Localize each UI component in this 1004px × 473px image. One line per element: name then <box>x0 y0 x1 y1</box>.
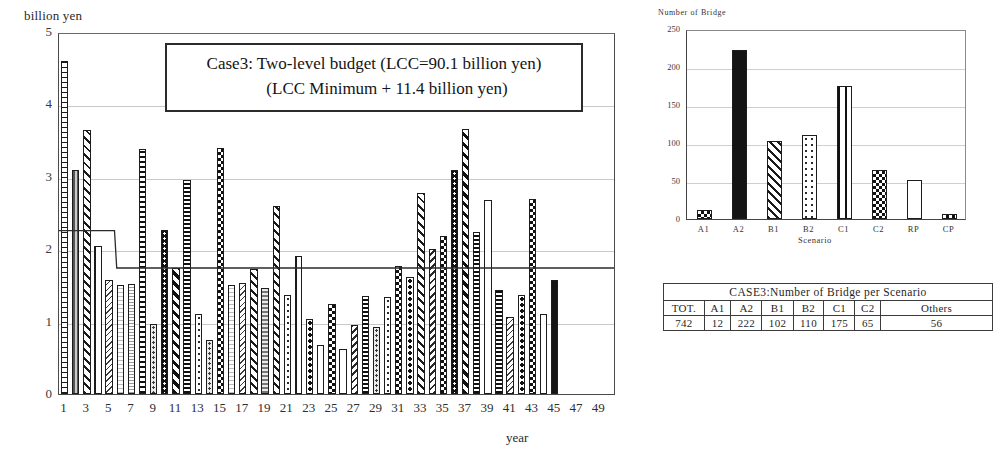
main-x-tick-27: 27 <box>341 400 365 416</box>
scenario-gridline-50 <box>687 183 965 184</box>
bar-year-45 <box>551 280 558 394</box>
main-x-tick-29: 29 <box>363 400 387 416</box>
bar-year-3 <box>83 130 90 394</box>
bar-year-33 <box>417 193 424 394</box>
table-header-a1: A1 <box>704 301 731 316</box>
bar-year-8 <box>139 149 146 394</box>
bar-year-37 <box>462 129 469 394</box>
main-x-tick-47: 47 <box>564 400 588 416</box>
bar-year-19 <box>261 288 268 394</box>
bar-year-42 <box>518 295 525 394</box>
bar-year-16 <box>228 285 235 394</box>
chart-title-line-1: Case3: Two-level budget (LCC=90.1 billio… <box>171 52 577 77</box>
table-header-c1: C1 <box>824 301 855 316</box>
scenario-x-tick-RP: RP <box>899 224 929 234</box>
scenario-bar-RP <box>907 180 922 219</box>
bar-year-20 <box>273 206 280 394</box>
scenario-x-tick-B1: B1 <box>759 224 789 234</box>
chart-title-line-2: (LCC Minimum + 11.4 billion yen) <box>171 77 577 102</box>
scenario-y-axis-label: Number of Bridge <box>658 8 726 17</box>
table-header-others: Others <box>881 301 993 316</box>
main-y-tick-1: 1 <box>26 314 52 330</box>
bar-year-13 <box>195 314 202 394</box>
table-cell-tot: 742 <box>664 316 705 331</box>
bar-year-9 <box>150 324 157 394</box>
main-x-tick-33: 33 <box>408 400 432 416</box>
main-y-tick-2: 2 <box>26 241 52 257</box>
scenario-gridline-150 <box>687 107 965 108</box>
main-x-tick-5: 5 <box>96 400 120 416</box>
scenario-x-tick-A2: A2 <box>724 224 754 234</box>
main-x-tick-7: 7 <box>118 400 142 416</box>
scenario-x-axis-label: Scenario <box>798 235 832 245</box>
bar-year-21 <box>284 295 291 394</box>
scenario-bar-B2 <box>802 135 817 219</box>
bar-year-28 <box>362 296 369 394</box>
bar-year-6 <box>117 285 124 394</box>
main-x-tick-13: 13 <box>185 400 209 416</box>
scenario-x-tick-B2: B2 <box>794 224 824 234</box>
scenario-x-tick-A1: A1 <box>689 224 719 234</box>
bar-year-5 <box>105 280 112 394</box>
bar-year-35 <box>440 236 447 394</box>
bar-year-41 <box>506 317 513 394</box>
table-caption-row: CASE3:Number of Bridge per Scenario <box>664 284 993 301</box>
bar-year-23 <box>306 319 313 394</box>
scenario-bar-CP <box>942 214 957 219</box>
main-x-axis-label: year <box>506 430 528 446</box>
main-x-tick-19: 19 <box>252 400 276 416</box>
bar-year-29 <box>373 327 380 394</box>
scenario-y-tick-100: 100 <box>656 138 680 148</box>
table-header-b2: B2 <box>793 301 824 316</box>
bar-year-40 <box>495 290 502 394</box>
main-x-tick-23: 23 <box>297 400 321 416</box>
table-cell-a2: 222 <box>731 316 762 331</box>
main-x-tick-37: 37 <box>453 400 477 416</box>
main-x-tick-17: 17 <box>230 400 254 416</box>
bar-year-2 <box>72 170 79 394</box>
main-x-ticks: 1357911131517192123252729313335373941434… <box>58 400 615 420</box>
bar-year-36 <box>451 170 458 394</box>
bar-year-26 <box>339 349 346 394</box>
bar-year-34 <box>429 249 436 394</box>
scenario-bar-C1 <box>837 86 852 219</box>
bar-year-25 <box>328 304 335 394</box>
table-header-b1: B1 <box>762 301 793 316</box>
scenario-y-tick-250: 250 <box>656 24 680 34</box>
bar-year-1 <box>61 61 68 394</box>
scenario-y-tick-150: 150 <box>656 100 680 110</box>
bar-year-10 <box>161 230 168 394</box>
main-x-tick-21: 21 <box>274 400 298 416</box>
bar-year-7 <box>128 284 135 394</box>
main-x-tick-41: 41 <box>497 400 521 416</box>
scenario-x-tick-C2: C2 <box>864 224 894 234</box>
main-bar-chart: billion yen 012345 135791113151719212325… <box>0 0 640 473</box>
main-y-tick-5: 5 <box>26 24 52 40</box>
bar-year-18 <box>250 269 257 394</box>
chart-page: billion yen 012345 135791113151719212325… <box>0 0 1004 473</box>
bar-year-43 <box>529 199 536 394</box>
table-cell-c2: 65 <box>855 316 881 331</box>
scenario-y-tick-0: 0 <box>656 214 680 224</box>
bar-year-27 <box>351 325 358 394</box>
table-cell-a1: 12 <box>704 316 731 331</box>
main-x-tick-49: 49 <box>586 400 610 416</box>
main-x-tick-9: 9 <box>141 400 165 416</box>
main-x-tick-11: 11 <box>163 400 187 416</box>
bar-year-38 <box>473 232 480 394</box>
main-x-tick-3: 3 <box>74 400 98 416</box>
bar-year-4 <box>94 246 101 394</box>
scenario-bar-C2 <box>872 170 887 219</box>
scenario-bar-A1 <box>697 210 712 219</box>
table-header-row: TOT.A1A2B1B2C1C2Others <box>664 301 993 316</box>
bar-year-22 <box>295 256 302 394</box>
main-x-tick-45: 45 <box>542 400 566 416</box>
main-x-tick-15: 15 <box>208 400 232 416</box>
bar-year-12 <box>183 180 190 394</box>
scenario-gridline-200 <box>687 69 965 70</box>
scenario-y-tick-50: 50 <box>656 176 680 186</box>
scenario-table: CASE3:Number of Bridge per ScenarioTOT.A… <box>663 283 993 331</box>
bar-year-32 <box>406 277 413 394</box>
bar-year-44 <box>540 314 547 394</box>
table-cell-b1: 102 <box>762 316 793 331</box>
